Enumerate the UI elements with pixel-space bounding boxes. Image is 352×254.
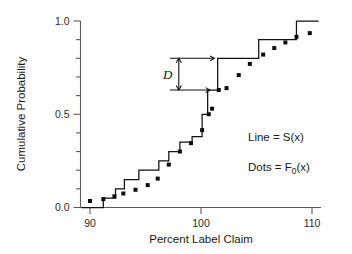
x-axis-tick-labels: 90100110: [84, 217, 320, 229]
ks-statistic-annotation: D: [162, 56, 214, 93]
data-point-marker: [217, 88, 221, 92]
legend-entry-line: Line = S(x): [248, 131, 304, 143]
data-point-marker: [283, 40, 287, 44]
y-axis-tick-labels: 0.00.51.0: [55, 15, 70, 214]
legend-line-prefix: Line = S: [248, 131, 291, 143]
ks-cdf-chart: 0.00.51.0 Cumulative Probability 9010011…: [0, 0, 352, 254]
data-point-marker: [189, 141, 193, 145]
data-point-marker: [156, 177, 160, 181]
y-tick-label: 0.0: [55, 201, 70, 213]
data-point-marker: [101, 197, 105, 201]
annotation-d-label: D: [162, 67, 173, 82]
data-point-marker: [88, 199, 92, 203]
data-point-marker: [121, 192, 125, 196]
data-point-marker: [248, 62, 252, 66]
data-point-marker: [210, 107, 214, 111]
data-point-marker: [178, 150, 182, 154]
data-point-marker: [261, 53, 265, 57]
step-line-sx: [81, 21, 319, 208]
data-point-marker: [237, 73, 241, 77]
data-point-marker: [294, 35, 298, 39]
legend-dots-prefix: Dots = F: [248, 161, 292, 173]
step-function-series: [81, 21, 319, 208]
x-tick-label: 110: [304, 217, 321, 229]
x-axis-title: Percent Label Claim: [149, 233, 253, 245]
chart-legend: Line = S(x) Dots = F0(x): [248, 131, 310, 176]
chart-canvas: 0.00.51.0 Cumulative Probability 9010011…: [0, 0, 352, 254]
data-point-marker: [272, 46, 276, 50]
legend-dots-suffix: (x): [297, 161, 311, 173]
data-point-marker: [112, 194, 116, 198]
x-axis-ticks: [90, 208, 312, 215]
legend-entry-dots: Dots = F0(x): [248, 161, 310, 176]
data-point-marker: [146, 183, 150, 187]
data-point-marker: [225, 86, 229, 90]
scatter-series-f0x: [88, 31, 312, 203]
x-tick-label: 100: [192, 217, 210, 229]
data-point-marker: [308, 31, 312, 35]
y-axis: 0.00.51.0 Cumulative Probability: [15, 15, 81, 214]
data-point-marker: [167, 163, 171, 167]
y-tick-label: 1.0: [55, 15, 70, 27]
x-axis: 90100110 Percent Label Claim: [81, 208, 322, 246]
y-axis-ticks: [74, 21, 81, 208]
legend-line-suffix: (x): [291, 131, 305, 143]
x-tick-label: 90: [84, 217, 96, 229]
data-point-marker: [200, 128, 204, 132]
y-axis-title: Cumulative Probability: [15, 57, 27, 172]
y-tick-label: 0.5: [55, 108, 70, 120]
data-point-marker: [134, 188, 138, 192]
data-point-marker: [207, 112, 211, 116]
